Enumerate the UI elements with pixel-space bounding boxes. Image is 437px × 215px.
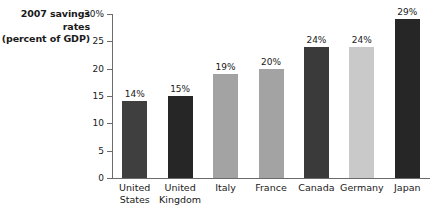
bar-rect: [122, 101, 147, 178]
bar-rect: [395, 19, 420, 178]
bar-value-label: 24%: [306, 35, 326, 45]
bar-rect: [304, 47, 329, 178]
y-axis-tick-label: 25: [93, 36, 104, 46]
bar-value-label: 14%: [125, 89, 145, 99]
bar: 19%: [213, 74, 238, 178]
y-axis-tick-mark: [107, 178, 112, 179]
category-label-line: States: [112, 194, 157, 206]
category-label-line: United: [157, 182, 202, 194]
y-axis-tick-mark: [107, 14, 112, 15]
y-axis-tick-mark: [107, 151, 112, 152]
category-label: UnitedStates: [112, 182, 157, 206]
category-label: Canada: [294, 182, 339, 194]
y-axis-tick-label: 15: [93, 91, 104, 101]
category-label-line: Canada: [294, 182, 339, 194]
axis-title-line-1: 2007 savings: [0, 8, 90, 21]
bar-rect: [349, 47, 374, 178]
category-label: UnitedKingdom: [157, 182, 202, 206]
y-axis-tick-label: 0: [98, 173, 104, 183]
category-label: Italy: [203, 182, 248, 194]
bar-rect: [213, 74, 238, 178]
bar-value-label: 19%: [216, 62, 236, 72]
bar: 20%: [259, 69, 284, 178]
category-label-line: Italy: [203, 182, 248, 194]
category-label-line: Germany: [339, 182, 384, 194]
axis-title-line-2: rates: [0, 21, 90, 34]
chart-axis-title: 2007 savings rates (percent of GDP): [0, 8, 90, 46]
bar-rect: [168, 96, 193, 178]
y-axis-tick-mark: [107, 123, 112, 124]
category-label-line: United: [112, 182, 157, 194]
bar-value-label: 20%: [261, 57, 281, 67]
bar-value-label: 15%: [170, 84, 190, 94]
bar-chart-figure: 2007 savings rates (percent of GDP) 30%2…: [0, 0, 437, 215]
y-axis-tick-label: 5: [98, 146, 104, 156]
bar-rect: [259, 69, 284, 178]
bar: 24%: [304, 47, 329, 178]
category-label: France: [248, 182, 293, 194]
plot-area: 30%2520151050 14%15%19%20%24%24%29% Unit…: [112, 14, 430, 178]
bar-value-label: 29%: [397, 7, 417, 17]
axis-title-line-3: (percent of GDP): [0, 33, 90, 46]
bar: 24%: [349, 47, 374, 178]
bar: 14%: [122, 101, 147, 178]
y-axis-tick-label: 20: [93, 64, 104, 74]
category-label-line: Kingdom: [157, 194, 202, 206]
category-label: Germany: [339, 182, 384, 194]
y-axis-line: [112, 14, 113, 178]
y-axis-tick-label: 10: [93, 118, 104, 128]
y-axis-tick-mark: [107, 69, 112, 70]
category-label-line: Japan: [385, 182, 430, 194]
category-label-line: France: [248, 182, 293, 194]
bar: 29%: [395, 19, 420, 178]
x-axis-line: [112, 178, 430, 179]
y-axis-tick-mark: [107, 41, 112, 42]
category-label: Japan: [385, 182, 430, 194]
y-axis-tick-label: 30%: [84, 9, 104, 19]
y-axis-tick-mark: [107, 96, 112, 97]
bar: 15%: [168, 96, 193, 178]
bar-value-label: 24%: [352, 35, 372, 45]
